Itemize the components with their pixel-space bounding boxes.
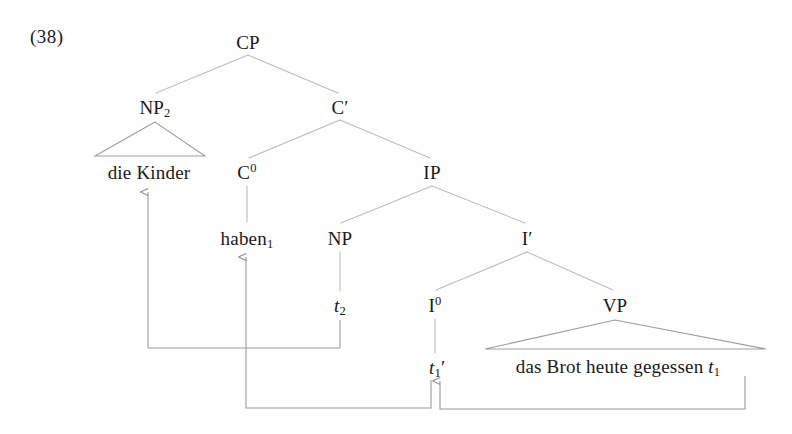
branch-ip-np (341, 186, 432, 223)
example-number: (38) (30, 26, 64, 48)
node-np2: NP2 (139, 98, 170, 117)
node-vp: VP (603, 296, 628, 315)
terminal-haben-index: 1 (267, 237, 273, 251)
branch-cbar-c0 (249, 120, 340, 158)
arrow-np-topicalization (148, 192, 340, 348)
node-i0: I0 (429, 296, 442, 315)
terminal-haben: haben1 (221, 229, 274, 248)
trace-t1-prime: t1′ (429, 358, 445, 377)
constituent-branches (156, 55, 613, 353)
terminal-vp-string-label: das Brot heute gegessen (516, 356, 709, 377)
node-np-label: NP (328, 228, 353, 249)
arrow-i-to-c-raising (246, 257, 431, 408)
node-c0: C0 (237, 163, 256, 182)
branch-cbar-ip (340, 120, 430, 158)
branch-ip-ibar (432, 186, 525, 223)
branch-cp-np2 (156, 55, 248, 93)
node-np: NP (328, 229, 353, 248)
terminal-die-kinder-label: die Kinder (108, 162, 191, 183)
node-ip-label: IP (423, 162, 440, 183)
triangle-vp (485, 320, 766, 349)
terminal-vp-string: das Brot heute gegessen t1 (516, 357, 721, 376)
node-ibar-prime: ′ (528, 228, 532, 249)
terminal-haben-label: haben (221, 228, 267, 249)
node-i0-level: 0 (435, 294, 441, 308)
trace-t1-prime-mark: ′ (441, 357, 445, 378)
trace-t2-index: 2 (340, 304, 346, 318)
node-c0-level: 0 (250, 161, 256, 175)
branch-ibar-vp (527, 252, 613, 290)
arrow-v-to-i-raising (440, 376, 745, 409)
terminal-die-kinder: die Kinder (108, 163, 191, 182)
node-cp: CP (236, 33, 260, 52)
syntax-tree-figure: (38) (0, 0, 792, 434)
trace-t1-index: 1 (714, 365, 720, 379)
node-cp-label: CP (236, 32, 260, 53)
node-cbar-prime: ′ (344, 97, 348, 118)
trace-t2: t2 (334, 296, 346, 315)
node-np2-label: NP (139, 97, 164, 118)
node-np2-index: 2 (164, 106, 170, 120)
node-ibar: I′ (522, 229, 533, 248)
branch-cp-cbar (248, 55, 338, 93)
node-c0-label: C (237, 162, 250, 183)
node-cbar-label: C (331, 97, 344, 118)
node-ip: IP (423, 163, 440, 182)
node-vp-label: VP (603, 295, 628, 316)
triangle-np2 (95, 122, 205, 156)
node-cbar: C′ (331, 98, 348, 117)
branch-ibar-i0 (436, 252, 527, 290)
